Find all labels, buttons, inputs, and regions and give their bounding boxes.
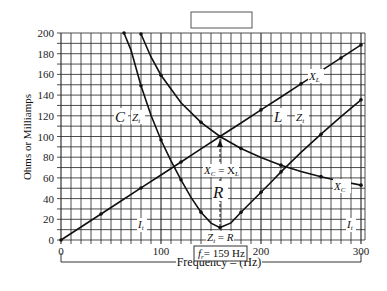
svg-text:180: 180: [38, 48, 55, 60]
label-xc-eq-xl: XC = XL: [203, 164, 239, 178]
y-axis-label: Ohms or Milliamps: [21, 94, 33, 180]
svg-text:100: 100: [38, 131, 55, 143]
resonance-chart: 020406080100120140160180200 0100200300 O…: [0, 0, 387, 291]
label-c: C: [115, 109, 126, 125]
svg-text:40: 40: [43, 193, 55, 205]
svg-text:100: 100: [153, 245, 170, 257]
svg-text:0: 0: [49, 234, 55, 246]
resonant-frequency-box: fr= 159 Hz: [194, 246, 247, 261]
label-l: L: [273, 109, 282, 125]
svg-text:20: 20: [43, 213, 55, 225]
title-box: [191, 12, 252, 28]
label-r: R: [212, 183, 224, 202]
label-zt-eq-r: Zt = R: [207, 231, 234, 245]
svg-text:60: 60: [43, 172, 55, 184]
svg-text:200: 200: [38, 27, 55, 39]
svg-text:120: 120: [38, 110, 55, 122]
svg-text:160: 160: [38, 68, 55, 80]
svg-text:80: 80: [43, 151, 55, 163]
svg-text:fr= 159 Hz: fr= 159 Hz: [198, 247, 245, 261]
svg-text:140: 140: [38, 89, 55, 101]
y-tick-labels: 020406080100120140160180200: [38, 27, 55, 246]
